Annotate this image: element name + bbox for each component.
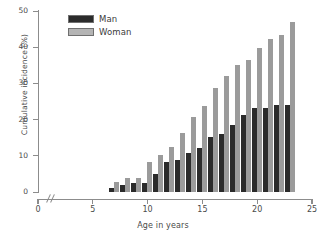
bar-woman-age-22 xyxy=(279,35,284,192)
y-tick-label: 10 xyxy=(8,151,28,160)
x-axis-line xyxy=(38,199,313,200)
legend: Man Woman xyxy=(68,13,131,39)
x-tick-label: 20 xyxy=(247,205,267,214)
x-tick xyxy=(202,199,203,204)
x-tick-label: 5 xyxy=(83,205,103,214)
chart-figure: Cumulative incidence (%) Age in years 01… xyxy=(0,0,326,235)
bar-woman-age-11 xyxy=(158,155,163,192)
x-tick-label: 0 xyxy=(28,205,48,214)
y-tick-label: 30 xyxy=(8,78,28,87)
bar-woman-age-10 xyxy=(147,162,152,192)
x-tick xyxy=(257,199,258,204)
legend-swatch-man-icon xyxy=(68,15,94,23)
x-axis-break-icon xyxy=(45,194,57,205)
legend-label-woman: Woman xyxy=(99,27,131,37)
bar-woman-age-9 xyxy=(136,178,141,192)
x-tick-label: 15 xyxy=(192,205,212,214)
x-tick xyxy=(37,199,38,204)
y-tick-label: 0 xyxy=(8,187,28,196)
x-tick xyxy=(92,199,93,204)
x-tick xyxy=(311,199,312,204)
y-tick-label: 50 xyxy=(8,6,28,15)
y-tick-label: 20 xyxy=(8,115,28,124)
y-tick-label: 40 xyxy=(8,42,28,51)
bar-woman-age-16 xyxy=(213,88,218,192)
x-tick xyxy=(147,199,148,204)
legend-item-woman: Woman xyxy=(68,26,131,37)
bar-woman-age-7 xyxy=(114,182,119,192)
bar-woman-age-20 xyxy=(257,48,262,192)
legend-item-man: Man xyxy=(68,13,131,24)
bar-woman-age-15 xyxy=(202,106,207,192)
legend-label-man: Man xyxy=(99,14,117,24)
x-axis-title: Age in years xyxy=(0,221,326,230)
bar-woman-age-21 xyxy=(268,39,273,192)
x-tick-label: 25 xyxy=(302,205,322,214)
x-tick-label: 10 xyxy=(138,205,158,214)
legend-swatch-woman-icon xyxy=(68,28,94,36)
bar-woman-age-8 xyxy=(125,178,130,192)
bar-woman-age-14 xyxy=(191,117,196,192)
bar-woman-age-19 xyxy=(246,60,251,192)
bar-woman-age-23 xyxy=(290,22,295,192)
bar-woman-age-17 xyxy=(224,76,229,192)
bar-woman-age-12 xyxy=(169,147,174,192)
bar-woman-age-13 xyxy=(180,133,185,192)
bar-woman-age-18 xyxy=(235,65,240,192)
